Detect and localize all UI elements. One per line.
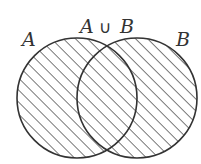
union-label-left: A — [78, 15, 94, 37]
union-operator: ∪ — [99, 17, 111, 37]
set-b-label: B — [175, 28, 190, 50]
union-label: A ∪ B — [78, 15, 134, 37]
venn-diagram: A B A ∪ B — [0, 0, 201, 164]
set-a-label: A — [20, 28, 36, 50]
union-label-right: B — [119, 15, 134, 37]
